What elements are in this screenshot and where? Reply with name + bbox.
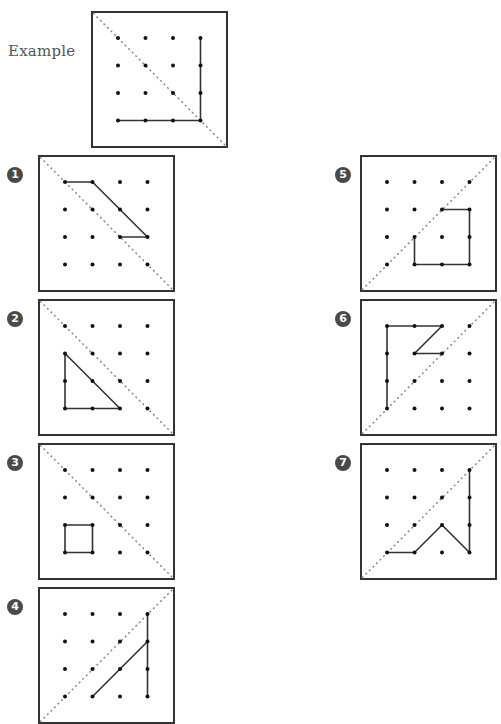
problem-number-badge: 7 bbox=[335, 455, 351, 471]
grid-dot bbox=[146, 468, 150, 472]
grid-dot bbox=[440, 352, 444, 356]
grid-dot bbox=[199, 64, 203, 68]
grid-dot bbox=[146, 324, 150, 328]
grid-dot bbox=[440, 379, 444, 383]
grid-dot bbox=[63, 640, 67, 644]
grid-dot bbox=[116, 64, 120, 68]
grid-dot bbox=[146, 180, 150, 184]
grid-dot bbox=[91, 695, 95, 699]
grid-dot bbox=[118, 352, 122, 356]
grid-dot bbox=[385, 407, 389, 411]
problem-number-badge: 1 bbox=[7, 167, 23, 183]
grid-dot bbox=[118, 407, 122, 411]
grid-dot bbox=[440, 407, 444, 411]
problem-number-badge: 4 bbox=[7, 599, 23, 615]
grid-dot bbox=[199, 91, 203, 95]
grid-dot bbox=[468, 352, 472, 356]
grid-dot bbox=[385, 551, 389, 555]
grid-dot bbox=[91, 640, 95, 644]
symmetry-line bbox=[40, 445, 173, 578]
grid-dot bbox=[118, 695, 122, 699]
shape-line bbox=[118, 38, 201, 121]
grid-dot bbox=[146, 379, 150, 383]
grid-dot bbox=[171, 91, 175, 95]
grid-dot bbox=[116, 119, 120, 123]
grid-dot bbox=[118, 180, 122, 184]
grid-dot bbox=[385, 379, 389, 383]
grid-dot bbox=[63, 407, 67, 411]
grid-dot bbox=[171, 64, 175, 68]
example-box bbox=[91, 11, 228, 148]
grid-dot bbox=[171, 119, 175, 123]
grid-dot bbox=[413, 496, 417, 500]
dot-grid bbox=[91, 11, 228, 148]
grid-dot bbox=[468, 468, 472, 472]
grid-dot bbox=[116, 91, 120, 95]
grid-dot bbox=[63, 208, 67, 212]
grid-dot bbox=[118, 379, 122, 383]
grid-dot bbox=[118, 523, 122, 527]
grid-dot bbox=[118, 324, 122, 328]
grid-dot bbox=[146, 352, 150, 356]
grid-dot bbox=[118, 235, 122, 239]
grid-dot bbox=[63, 612, 67, 616]
grid-dot bbox=[440, 208, 444, 212]
symmetry-line bbox=[40, 157, 173, 290]
grid-dot bbox=[63, 523, 67, 527]
grid-dot bbox=[413, 407, 417, 411]
symmetry-line bbox=[362, 157, 495, 290]
grid-dot bbox=[199, 36, 203, 40]
grid-dot bbox=[440, 324, 444, 328]
grid-dot bbox=[413, 208, 417, 212]
grid-dot bbox=[468, 496, 472, 500]
grid-dot bbox=[146, 523, 150, 527]
problem-number-badge: 3 bbox=[7, 455, 23, 471]
symmetry-line bbox=[40, 589, 173, 722]
problem-box-5 bbox=[360, 155, 497, 292]
example-label: Example bbox=[8, 42, 75, 60]
grid-dot bbox=[440, 235, 444, 239]
grid-dot bbox=[468, 407, 472, 411]
grid-dot bbox=[91, 667, 95, 671]
grid-dot bbox=[440, 523, 444, 527]
grid-dot bbox=[468, 208, 472, 212]
grid-dot bbox=[385, 324, 389, 328]
grid-dot bbox=[91, 180, 95, 184]
grid-dot bbox=[144, 64, 148, 68]
grid-dot bbox=[413, 235, 417, 239]
grid-dot bbox=[63, 324, 67, 328]
grid-dot bbox=[468, 235, 472, 239]
grid-dot bbox=[63, 235, 67, 239]
grid-dot bbox=[63, 667, 67, 671]
shape-line bbox=[65, 182, 148, 237]
grid-dot bbox=[413, 263, 417, 267]
grid-dot bbox=[440, 263, 444, 267]
grid-dot bbox=[146, 263, 150, 267]
dot-grid bbox=[38, 299, 175, 436]
grid-dot bbox=[468, 180, 472, 184]
grid-dot bbox=[440, 468, 444, 472]
grid-dot bbox=[385, 208, 389, 212]
grid-dot bbox=[63, 180, 67, 184]
problem-box-3 bbox=[38, 443, 175, 580]
grid-dot bbox=[413, 551, 417, 555]
symmetry-line bbox=[362, 301, 495, 434]
grid-dot bbox=[91, 208, 95, 212]
grid-dot bbox=[413, 379, 417, 383]
grid-dot bbox=[146, 551, 150, 555]
grid-dot bbox=[144, 36, 148, 40]
symmetry-line bbox=[40, 301, 173, 434]
dot-grid bbox=[38, 587, 175, 724]
grid-dot bbox=[63, 379, 67, 383]
dot-grid bbox=[360, 443, 497, 580]
grid-dot bbox=[118, 263, 122, 267]
grid-dot bbox=[63, 468, 67, 472]
grid-dot bbox=[146, 407, 150, 411]
problem-number-badge: 5 bbox=[335, 167, 351, 183]
grid-dot bbox=[468, 379, 472, 383]
symmetry-line bbox=[362, 445, 495, 578]
grid-dot bbox=[385, 263, 389, 267]
grid-dot bbox=[91, 263, 95, 267]
grid-dot bbox=[91, 496, 95, 500]
grid-dot bbox=[63, 551, 67, 555]
